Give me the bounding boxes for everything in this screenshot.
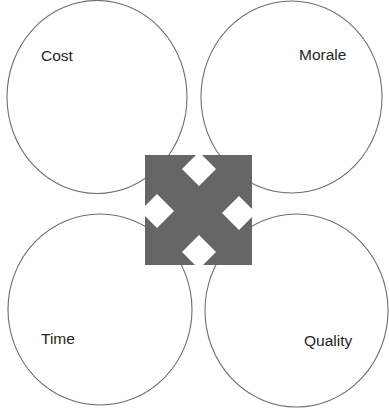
four-way-arrow-icon — [140, 152, 256, 269]
quadrant-diagram: Cost Morale Time Quality — [0, 0, 389, 412]
label-cost: Cost — [41, 47, 74, 64]
label-quality: Quality — [304, 332, 352, 349]
label-morale: Morale — [299, 46, 346, 63]
label-time: Time — [41, 330, 75, 347]
